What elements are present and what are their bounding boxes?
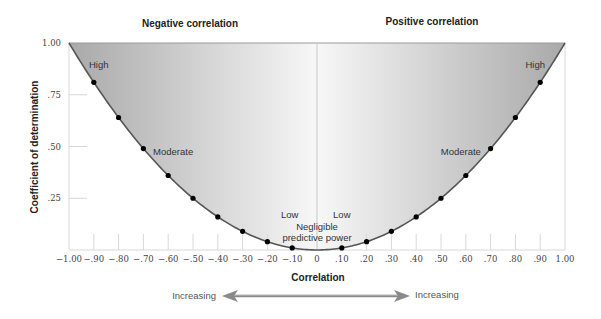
data-point bbox=[389, 229, 394, 234]
data-point bbox=[414, 214, 419, 219]
data-point bbox=[240, 229, 245, 234]
data-point bbox=[265, 239, 270, 244]
y-tick-label: .50 bbox=[47, 142, 61, 152]
x-tick-label: .60 bbox=[459, 254, 473, 264]
annotation-label: predictive power bbox=[282, 232, 351, 243]
x-tick-label: −1.00 bbox=[56, 254, 82, 264]
y-tick-label: 1.00 bbox=[42, 38, 61, 48]
increasing-left-label: Increasing bbox=[172, 290, 216, 301]
annotation-label: High bbox=[89, 59, 109, 70]
x-tick-label: 0 bbox=[314, 254, 319, 264]
x-tick-label: −.80 bbox=[108, 254, 129, 264]
x-tick-label: .80 bbox=[509, 254, 523, 264]
x-tick-label: .10 bbox=[335, 254, 349, 264]
increasing-right-label: Increasing bbox=[415, 289, 459, 300]
annotation-label: Negligible bbox=[296, 221, 338, 232]
data-point bbox=[339, 245, 344, 250]
x-tick-label: −.10 bbox=[282, 254, 303, 264]
annotation-label: Low bbox=[333, 209, 351, 220]
x-tick-label: −.70 bbox=[133, 254, 154, 264]
x-tick-label: .30 bbox=[385, 254, 399, 264]
data-point bbox=[438, 196, 443, 201]
x-tick-label: −.90 bbox=[83, 254, 104, 264]
data-point bbox=[116, 115, 121, 120]
x-axis-title: Correlation bbox=[291, 272, 344, 283]
y-tick-label: .75 bbox=[47, 90, 61, 100]
annotation-label: Moderate bbox=[153, 146, 193, 157]
x-tick-label: −.50 bbox=[183, 254, 204, 264]
data-point bbox=[215, 214, 220, 219]
y-tick-labels: .25.50.751.00 bbox=[42, 38, 61, 203]
data-point bbox=[463, 173, 468, 178]
data-point bbox=[91, 80, 96, 85]
data-point bbox=[141, 146, 146, 151]
annotation-label: Low bbox=[281, 209, 299, 220]
data-point bbox=[190, 196, 195, 201]
x-tick-label: −.40 bbox=[207, 254, 228, 264]
annotation-label: High bbox=[525, 59, 545, 70]
data-point bbox=[513, 115, 518, 120]
x-tick-label: .50 bbox=[434, 254, 448, 264]
x-tick-label: .20 bbox=[360, 254, 374, 264]
direction-arrow bbox=[222, 290, 410, 302]
data-point bbox=[166, 173, 171, 178]
negative-correlation-title: Negative correlation bbox=[142, 18, 238, 29]
data-point bbox=[538, 80, 543, 85]
x-tick-label: −.30 bbox=[232, 254, 253, 264]
positive-correlation-title: Positive correlation bbox=[386, 16, 479, 27]
data-point bbox=[290, 245, 295, 250]
data-point bbox=[488, 146, 493, 151]
annotation-label: Moderate bbox=[441, 146, 481, 157]
y-axis-title: Coefficient of determination bbox=[29, 81, 40, 214]
y-tick-label: .25 bbox=[47, 193, 61, 203]
correlation-chart: −1.00−.90−.80−.70−.60−.50−.40−.30−.20−.1… bbox=[0, 0, 601, 319]
x-tick-label: .70 bbox=[484, 254, 498, 264]
x-tick-label: 1.00 bbox=[556, 254, 575, 264]
data-point bbox=[364, 239, 369, 244]
x-tick-label: −.60 bbox=[158, 254, 179, 264]
x-tick-label: .90 bbox=[533, 254, 547, 264]
x-tick-label: .40 bbox=[409, 254, 423, 264]
x-tick-labels: −1.00−.90−.80−.70−.60−.50−.40−.30−.20−.1… bbox=[56, 254, 575, 264]
x-tick-label: −.20 bbox=[257, 254, 278, 264]
